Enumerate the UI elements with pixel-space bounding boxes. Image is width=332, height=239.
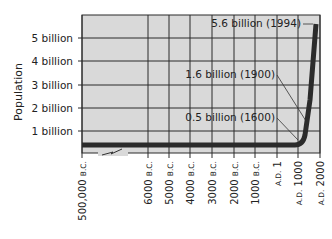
y-axis-title: Population <box>12 63 25 121</box>
y-axis-labels: 5 billion 4 billion 3 billion 2 billion … <box>32 32 73 137</box>
x-tick-6000bc: 6000 B.C. <box>143 161 154 205</box>
annotation-1600: 0.5 billion (1600) <box>185 111 275 123</box>
y-tick-5: 5 billion <box>32 32 73 44</box>
x-tick-3000bc: 3000 B.C. <box>207 161 218 205</box>
y-tick-1: 1 billion <box>32 125 73 137</box>
y-tick-3: 3 billion <box>32 79 73 91</box>
population-chart: 5.6 billion (1994) 1.6 billion (1900) 0.… <box>0 0 332 239</box>
axis-break-icon <box>98 147 128 156</box>
x-axis-labels: 500,000 B.C. 6000 B.C. 5000 B.C. 4000 B.… <box>77 161 326 221</box>
x-tick-2000bc: 2000 B.C. <box>229 161 240 205</box>
annotation-1994: 5.6 billion (1994) <box>211 17 301 29</box>
y-tick-4: 4 billion <box>32 55 73 67</box>
x-tick-5000bc: 5000 B.C. <box>164 161 175 205</box>
x-tick-500000bc: 500,000 B.C. <box>77 161 88 221</box>
y-tick-2: 2 billion <box>32 102 73 114</box>
plot-area <box>82 15 320 153</box>
x-tick-ad1: A.D. 1 <box>272 161 283 186</box>
x-tick-ad2000: A.D. 2000 <box>315 161 326 205</box>
x-tick-4000bc: 4000 B.C. <box>185 161 196 205</box>
x-tick-ad1000: A.D. 1000 <box>293 161 304 205</box>
x-tick-1000bc: 1000 B.C. <box>250 161 261 205</box>
annotation-1900: 1.6 billion (1900) <box>185 68 275 80</box>
